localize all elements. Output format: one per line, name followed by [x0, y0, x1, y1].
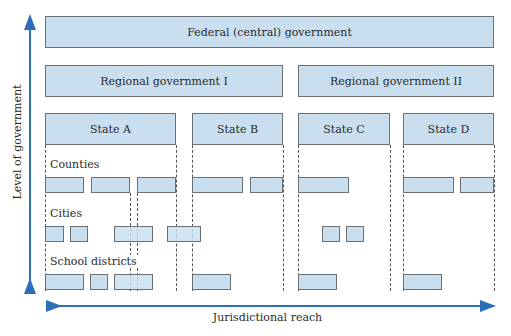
city-box [346, 226, 364, 242]
county-box [137, 177, 176, 193]
city-box [70, 226, 88, 242]
school-districts-row-label: School districts [50, 255, 139, 268]
state-d-right-boundary [494, 145, 495, 291]
state-b-label: State B [217, 123, 258, 136]
regional-government-2-label: Regional government II [330, 75, 462, 88]
state-a-left-boundary [45, 145, 46, 291]
school-district-box [90, 274, 108, 290]
school-district-box [403, 274, 442, 290]
state-d-box: State D [403, 113, 494, 145]
county-box [460, 177, 494, 193]
cities-row-label: Cities [50, 207, 84, 220]
state-a-box: State A [45, 113, 176, 145]
county-box [403, 177, 454, 193]
city-box [322, 226, 340, 242]
state-c-box: State C [298, 113, 390, 145]
city-box [167, 226, 201, 242]
state-b-left-boundary [192, 145, 193, 291]
school-district-box [45, 274, 84, 290]
federal-government-box: Federal (central) government [45, 16, 494, 48]
county-box [91, 177, 130, 193]
federal-government-label: Federal (central) government [187, 26, 352, 39]
state-c-right-boundary [390, 145, 391, 291]
school-district-box [298, 274, 337, 290]
regional-government-2-box: Regional government II [298, 65, 494, 97]
state-c-left-boundary [298, 145, 299, 291]
county-box [192, 177, 243, 193]
city-box [114, 226, 153, 242]
county-box [298, 177, 349, 193]
county-box [45, 177, 84, 193]
state-d-left-boundary [403, 145, 404, 291]
school-district-box [192, 274, 231, 290]
horizontal-axis-label: Jurisdictional reach [205, 311, 330, 324]
city-box [45, 226, 64, 242]
state-d-label: State D [428, 123, 470, 136]
counties-row-label: Counties [50, 158, 101, 171]
county-box [250, 177, 283, 193]
state-b-box: State B [192, 113, 283, 145]
state-a-label: State A [90, 123, 131, 136]
state-b-right-boundary [283, 145, 284, 291]
state-a-right-boundary [176, 145, 177, 291]
regional-government-1-label: Regional government I [100, 75, 228, 88]
school-district-box [114, 274, 153, 290]
vertical-axis-label: Level of government [11, 110, 24, 200]
state-c-label: State C [323, 123, 364, 136]
regional-government-1-box: Regional government I [45, 65, 283, 97]
